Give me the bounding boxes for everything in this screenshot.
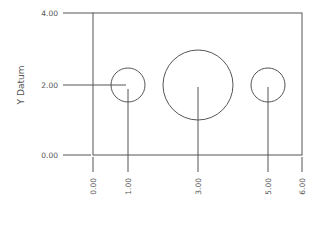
x-label-1: 1.00 xyxy=(124,178,133,195)
y-ordinate-4: 4.00 xyxy=(41,9,93,18)
x-label-3: 3.00 xyxy=(194,178,203,195)
y-label-2: 2.00 xyxy=(41,81,58,90)
x-label-6: 6.00 xyxy=(298,178,307,195)
x-label-0: 0.00 xyxy=(89,178,98,195)
y-axis-title: Y Datum xyxy=(16,66,26,106)
y-label-0: 0.00 xyxy=(41,151,58,160)
y-ordinate-2: 2.00 xyxy=(41,81,126,90)
y-ordinate-0: 0.00 xyxy=(41,151,91,160)
x-label-5: 5.00 xyxy=(264,178,273,195)
y-label-4: 4.00 xyxy=(41,9,58,18)
dimension-drawing: Y Datum 4.00 2.00 0.00 0.00 1.00 3.00 5.… xyxy=(0,0,321,229)
